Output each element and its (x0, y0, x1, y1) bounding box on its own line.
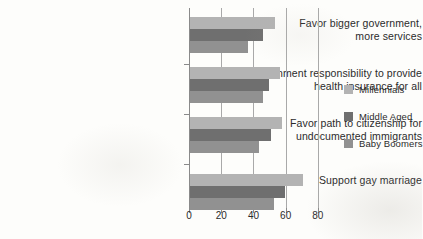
bar-baby-boomers-0 (190, 41, 248, 53)
legend-item-millennials: Millennials (344, 84, 420, 95)
plot-area (189, 8, 334, 208)
bar-millennials-3 (190, 174, 303, 186)
category-separator-tick-2 (184, 164, 189, 165)
chart-legend: Millennials Middle Aged Baby Boomers (344, 84, 420, 165)
bar-group-1 (190, 67, 334, 103)
legend-swatch-middle-aged (344, 112, 353, 121)
bar-middle-aged-1 (190, 79, 269, 91)
bar-middle-aged-2 (190, 129, 271, 141)
legend-item-baby-boomers: Baby Boomers (344, 138, 420, 149)
tick-label-80: 80 (306, 210, 330, 221)
bar-group-2 (190, 117, 334, 153)
tick-label-20: 20 (209, 210, 233, 221)
bar-group-3 (190, 174, 334, 210)
bar-millennials-1 (190, 67, 280, 79)
bar-millennials-2 (190, 117, 282, 129)
bar-millennials-0 (190, 17, 275, 29)
legend-item-middle-aged: Middle Aged (344, 111, 420, 122)
bar-middle-aged-3 (190, 186, 285, 198)
legend-label-baby-boomers: Baby Boomers (359, 138, 423, 149)
category-separator-tick-0 (184, 64, 189, 65)
tick-label-0: 0 (177, 210, 201, 221)
bar-middle-aged-0 (190, 29, 263, 41)
bar-group-0 (190, 17, 334, 53)
tick-label-40: 40 (241, 210, 265, 221)
bar-baby-boomers-2 (190, 141, 259, 153)
legend-label-millennials: Millennials (359, 84, 404, 95)
legend-swatch-millennials (344, 85, 353, 94)
legend-label-middle-aged: Middle Aged (359, 111, 412, 122)
tick-label-60: 60 (274, 210, 298, 221)
category-separator-tick-1 (184, 114, 189, 115)
bar-baby-boomers-3 (190, 198, 274, 210)
legend-swatch-baby-boomers (344, 139, 353, 148)
bar-baby-boomers-1 (190, 91, 263, 103)
